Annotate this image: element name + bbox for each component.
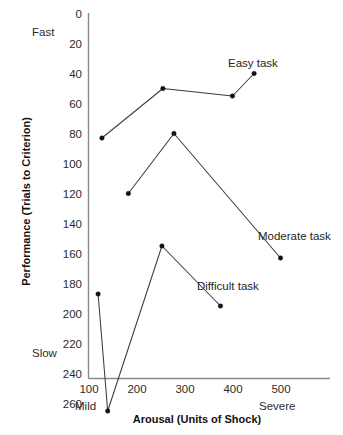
- data-point: [96, 292, 101, 297]
- chart-container: 0 20 40 60 80 100 120 140 160 180 200 22…: [0, 0, 343, 435]
- y-tick-label: 40: [52, 69, 82, 81]
- x-tick-label: 400: [213, 384, 253, 396]
- x-tick-label: 500: [261, 384, 301, 396]
- data-point: [126, 191, 131, 196]
- x-tick-label: 300: [165, 384, 205, 396]
- x-anchor-mild-label: Mild: [75, 401, 96, 413]
- data-point: [160, 244, 165, 249]
- data-point: [172, 131, 177, 136]
- y-tick-label: 60: [52, 99, 82, 111]
- y-tick-label: 240: [52, 369, 82, 381]
- x-axis-title: Arousal (Units of Shock): [72, 414, 322, 425]
- y-tick-label: 100: [52, 159, 82, 171]
- y-tick-label: 0: [52, 9, 82, 21]
- series-layer: [96, 71, 283, 413]
- y-tick-label: 20: [52, 39, 82, 51]
- data-point: [161, 86, 166, 91]
- y-axis-title: Performance (Trials to Criterion): [21, 102, 32, 302]
- data-point: [105, 409, 110, 414]
- series-label-easy-task: Easy task: [228, 58, 278, 70]
- y-tick-label: 120: [52, 189, 82, 201]
- data-point: [230, 94, 235, 99]
- data-point: [252, 71, 257, 76]
- y-tick-label: 140: [52, 219, 82, 231]
- y-anchor-fast-label: Fast: [32, 27, 54, 39]
- series-easy-task: [100, 71, 257, 140]
- series-line: [102, 74, 254, 139]
- series-label-difficult-task: Difficult task: [197, 281, 259, 293]
- y-tick-label: 160: [52, 249, 82, 261]
- series-label-moderate-task: Moderate task: [258, 231, 331, 243]
- axes: [89, 13, 331, 379]
- x-anchor-severe-label: Severe: [259, 401, 295, 413]
- x-tick-label: 200: [117, 384, 157, 396]
- data-point: [218, 304, 223, 309]
- y-anchor-slow-label: Slow: [32, 348, 57, 360]
- y-tick-label: 180: [52, 279, 82, 291]
- data-point: [100, 136, 105, 141]
- y-tick-label: 200: [52, 309, 82, 321]
- y-tick-label: 80: [52, 129, 82, 141]
- x-tick-label: 100: [69, 384, 109, 396]
- data-point: [278, 256, 283, 261]
